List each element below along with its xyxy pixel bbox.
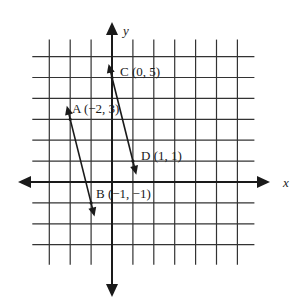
coordinate-plane: x y A (−2, 3) B (−1, −1) C (0, 5) D (1, … bbox=[0, 0, 298, 303]
point-B bbox=[90, 201, 93, 204]
point-label-D: D (1, 1) bbox=[141, 148, 182, 163]
y-axis-up-arrow-icon bbox=[106, 22, 118, 35]
y-axis-label: y bbox=[121, 23, 129, 38]
arrowhead-icon bbox=[88, 207, 96, 217]
point-label-B: B (−1, −1) bbox=[96, 186, 151, 201]
point-C bbox=[110, 76, 113, 79]
arrowhead-icon bbox=[107, 64, 115, 74]
x-axis-right-arrow-icon bbox=[257, 176, 270, 188]
point-A bbox=[69, 118, 72, 121]
x-axis-left-arrow-icon bbox=[18, 176, 31, 188]
point-label-C: C (0, 5) bbox=[120, 64, 160, 79]
point-label-A: A (−2, 3) bbox=[72, 101, 119, 116]
labels: x y A (−2, 3) B (−1, −1) C (0, 5) D (1, … bbox=[72, 23, 289, 201]
point-D bbox=[131, 160, 134, 163]
arrowhead-icon bbox=[130, 165, 138, 175]
x-axis-label: x bbox=[282, 175, 289, 190]
y-axis-down-arrow-icon bbox=[106, 284, 118, 297]
